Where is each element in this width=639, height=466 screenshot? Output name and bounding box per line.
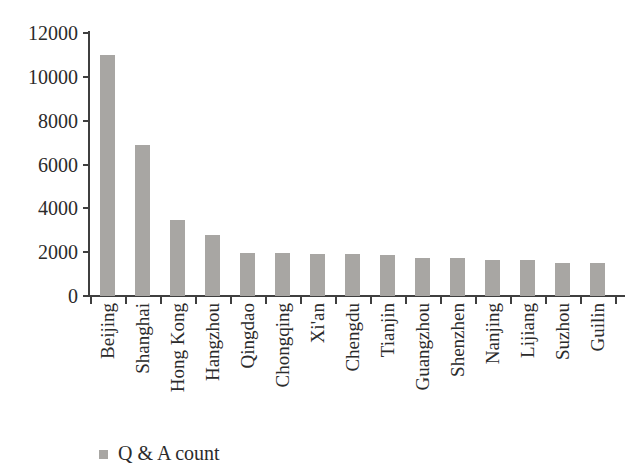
x-tick-mark [265,297,267,304]
bar-tianjin [380,255,395,296]
y-tick-mark [83,295,90,297]
bar-shanghai [135,145,150,296]
y-tick-mark [83,207,90,209]
legend: Q & A count [99,441,220,465]
x-axis-label: Hong Kong [167,303,188,392]
legend-label: Q & A count [118,441,220,465]
x-tick-mark [125,297,127,304]
bar-guangzhou [415,258,430,296]
x-tick-mark [300,297,302,304]
bar-chongqing [275,253,290,296]
x-axis-label: Lijiang [517,303,538,358]
bar-xi-an [310,254,325,296]
bar-shenzhen [450,258,465,296]
y-tick-label: 4000 [8,198,78,218]
x-axis-label: Xi'an [307,303,328,343]
x-tick-mark [440,297,442,304]
bar-qingdao [240,253,255,296]
bar-hong-kong [170,220,185,296]
legend-swatch-icon [99,450,108,459]
x-tick-mark [580,297,582,304]
x-axis-label: Chongqing [272,303,293,387]
x-axis-label: Beijing [97,303,118,359]
y-tick-mark [83,251,90,253]
y-tick-label: 0 [8,286,78,306]
x-tick-mark [475,297,477,304]
x-tick-mark [545,297,547,304]
x-axis-label: Guangzhou [412,303,433,391]
bar-chengdu [345,254,360,296]
bar-beijing [100,55,115,296]
y-tick-mark [83,120,90,122]
x-tick-mark [335,297,337,304]
x-axis-label: Tianjin [377,303,398,357]
x-axis-label: Guilin [587,303,608,352]
y-tick-label: 6000 [8,155,78,175]
x-tick-mark [615,297,617,304]
x-tick-mark [90,297,92,304]
bar-guilin [590,263,605,296]
x-axis-label: Hangzhou [202,303,223,381]
bar-lijiang [520,260,535,296]
x-axis-label: Suzhou [552,303,573,360]
x-axis-label: Chengdu [342,303,363,372]
bar-hangzhou [205,235,220,296]
y-tick-mark [83,76,90,78]
y-tick-label: 8000 [8,111,78,131]
y-tick-mark [83,32,90,34]
bar-nanjing [485,260,500,296]
x-axis-label: Nanjing [482,303,503,364]
x-tick-mark [195,297,197,304]
y-tick-mark [83,164,90,166]
x-axis-label: Shanghai [132,303,153,374]
x-axis-label: Shenzhen [447,303,468,377]
x-tick-mark [405,297,407,304]
x-axis-label: Qingdao [237,303,258,368]
plot-area: 020004000600080001000012000 BeijingShang… [0,0,639,466]
bar-suzhou [555,263,570,296]
y-tick-label: 12000 [8,23,78,43]
x-tick-mark [230,297,232,304]
x-tick-mark [160,297,162,304]
bar-chart-figure: 020004000600080001000012000 BeijingShang… [0,0,639,466]
x-tick-mark [510,297,512,304]
y-tick-label: 10000 [8,67,78,87]
x-tick-mark [370,297,372,304]
y-tick-label: 2000 [8,242,78,262]
